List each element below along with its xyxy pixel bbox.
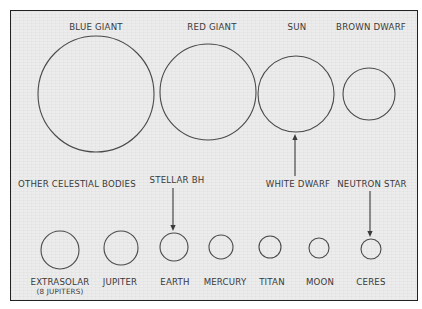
sun-circle bbox=[258, 56, 334, 132]
brown-dwarf-circle bbox=[343, 68, 395, 120]
earth-label: EARTH bbox=[160, 277, 189, 287]
neutron-star-label: NEUTRON STAR bbox=[337, 179, 407, 189]
titan-label: TITAN bbox=[258, 277, 285, 287]
jupiter-circle bbox=[104, 231, 138, 265]
body-brown-dwarf: BROWN DWARF bbox=[336, 22, 406, 120]
extrasolar-circle bbox=[41, 231, 79, 269]
red-giant-circle bbox=[160, 44, 256, 140]
arrow-head-icon bbox=[292, 134, 297, 140]
earth-circle bbox=[160, 233, 188, 261]
moon-circle bbox=[309, 238, 329, 258]
body-sun: SUN bbox=[258, 22, 334, 132]
arrow-head-icon bbox=[367, 231, 372, 237]
body-moon: MOON bbox=[306, 238, 334, 287]
body-titan: TITAN bbox=[258, 236, 285, 287]
stellar-bh-label: STELLAR BH bbox=[150, 175, 205, 185]
jupiter-label: JUPITER bbox=[102, 277, 138, 287]
mercury-circle bbox=[209, 235, 233, 259]
body-jupiter: JUPITER bbox=[102, 231, 138, 287]
section-label: OTHER CELESTIAL BODIES bbox=[18, 179, 136, 189]
moon-label: MOON bbox=[306, 277, 334, 287]
body-earth: EARTH bbox=[160, 233, 190, 287]
annotation-stellar-bh: STELLAR BH bbox=[150, 175, 205, 231]
body-mercury: MERCURY bbox=[204, 235, 247, 287]
body-red-giant: RED GIANT bbox=[160, 22, 256, 140]
ceres-label: CERES bbox=[356, 277, 385, 287]
annotations: WHITE DWARFSTELLAR BHNEUTRON STAR bbox=[150, 134, 407, 237]
extrasolar-label: EXTRASOLAR bbox=[31, 277, 90, 287]
brown-dwarf-label: BROWN DWARF bbox=[336, 22, 406, 32]
arrow-head-icon bbox=[170, 225, 175, 231]
bottom-row-bodies: EXTRASOLAR(8 JUPITERS)JUPITEREARTHMERCUR… bbox=[31, 231, 386, 296]
sun-label: SUN bbox=[288, 22, 307, 32]
titan-circle bbox=[259, 236, 281, 258]
blue-giant-label: BLUE GIANT bbox=[69, 22, 123, 32]
celestial-size-diagram: BLUE GIANTRED GIANTSUNBROWN DWARF OTHER … bbox=[0, 0, 422, 309]
body-ceres: CERES bbox=[356, 239, 385, 287]
mercury-label: MERCURY bbox=[204, 277, 247, 287]
blue-giant-circle bbox=[38, 36, 154, 152]
annotation-neutron-star: NEUTRON STAR bbox=[337, 179, 407, 237]
white-dwarf-label: WHITE DWARF bbox=[266, 179, 331, 189]
body-blue-giant: BLUE GIANT bbox=[38, 22, 154, 152]
ceres-circle bbox=[361, 239, 381, 259]
diagram-stage: BLUE GIANTRED GIANTSUNBROWN DWARF OTHER … bbox=[0, 0, 422, 309]
body-extrasolar: EXTRASOLAR(8 JUPITERS) bbox=[31, 231, 90, 296]
annotation-white-dwarf: WHITE DWARF bbox=[266, 134, 331, 189]
extrasolar-sublabel: (8 JUPITERS) bbox=[36, 287, 83, 296]
top-row-stars: BLUE GIANTRED GIANTSUNBROWN DWARF bbox=[38, 22, 406, 152]
red-giant-label: RED GIANT bbox=[187, 22, 237, 32]
